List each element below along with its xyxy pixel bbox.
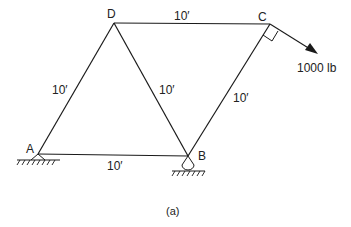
node-label-d: D	[107, 7, 116, 21]
figure-caption: (a)	[166, 205, 179, 217]
load-arrow-icon	[270, 24, 318, 54]
truss-diagram: D C A B 10′ 10′ 10′ 10′ 10′ 1000 lb (a)	[0, 0, 351, 227]
pin-support-a-icon	[17, 154, 60, 165]
load-label: 1000 lb	[297, 61, 337, 75]
node-label-c: C	[258, 10, 267, 24]
member-bc	[188, 24, 270, 156]
truss-members	[38, 23, 270, 156]
member-db	[114, 23, 188, 156]
member-ab	[38, 154, 188, 156]
length-label-bc: 10′	[233, 91, 249, 105]
node-label-a: A	[26, 142, 34, 156]
length-label-ab: 10′	[107, 159, 123, 173]
length-label-db: 10′	[159, 83, 175, 97]
length-label-ad: 10′	[52, 83, 68, 97]
member-dc	[114, 23, 270, 24]
node-label-b: B	[198, 149, 206, 163]
member-ad	[38, 23, 114, 154]
length-label-dc: 10′	[174, 9, 190, 23]
